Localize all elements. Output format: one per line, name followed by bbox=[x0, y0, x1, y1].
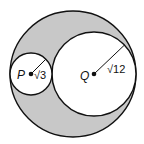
circles-diagram: P √3 Q √12 bbox=[0, 0, 144, 144]
label-p: P bbox=[17, 68, 25, 82]
center-point-p bbox=[29, 72, 34, 77]
radius-label-p: √3 bbox=[34, 69, 46, 81]
radius-label-q: √12 bbox=[107, 63, 125, 75]
center-point-q bbox=[92, 72, 97, 77]
label-q: Q bbox=[80, 69, 89, 83]
